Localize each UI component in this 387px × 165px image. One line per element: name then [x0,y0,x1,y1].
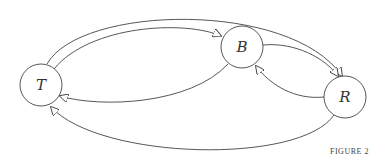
node-r-label: R [338,88,350,106]
node-t: T [20,64,62,106]
node-t-label: T [36,76,47,94]
edge-b-to-t [60,64,228,102]
edge-r-to-b [256,66,324,97]
figure-caption: FIGURE 2 [330,147,369,156]
node-b-label: B [235,38,247,56]
node-r: R [324,76,366,118]
edge-r-to-t [51,107,334,150]
node-b: B [221,26,263,68]
edge-t-to-r [47,19,342,76]
edge-t-to-b [54,28,221,69]
edge-b-to-r [263,45,338,76]
state-diagram: T B R [0,0,387,165]
